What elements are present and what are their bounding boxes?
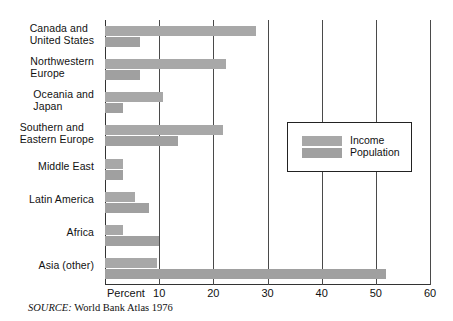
category-label-line1: Latin America bbox=[29, 194, 94, 206]
category-label-line1: Africa bbox=[67, 227, 94, 239]
x-tick-label-50: 50 bbox=[370, 287, 382, 299]
category-label-7: Asia (other) bbox=[39, 260, 94, 272]
category-label-line1: Middle East bbox=[38, 161, 94, 173]
chart-legend: Income Population bbox=[287, 122, 412, 172]
category-label-0: Canada andUnited States bbox=[30, 23, 94, 46]
x-tick-label-60: 60 bbox=[424, 287, 436, 299]
source-text: World Bank Atlas 1976 bbox=[72, 302, 173, 313]
bar-income bbox=[105, 192, 135, 202]
bar-income bbox=[105, 26, 256, 36]
category-label-4: Middle East bbox=[38, 161, 94, 173]
bar-income bbox=[105, 125, 223, 135]
bar-population bbox=[105, 103, 123, 113]
category-label-line2: Eastern Europe bbox=[20, 134, 94, 146]
legend-swatch-group bbox=[302, 136, 342, 159]
category-label-2: Oceania andJapan bbox=[33, 89, 94, 112]
category-label-line2: Japan bbox=[33, 101, 94, 113]
category-label-line1: Asia (other) bbox=[39, 260, 94, 272]
source-label: SOURCE: bbox=[28, 302, 72, 313]
legend-label-population: Population bbox=[350, 146, 400, 158]
bar-income bbox=[105, 258, 157, 268]
category-label-1: NorthwesternEurope bbox=[30, 56, 94, 79]
x-tick-label-30: 30 bbox=[261, 287, 273, 299]
bar-population bbox=[105, 269, 386, 279]
category-label-6: Africa bbox=[67, 227, 94, 239]
bar-income bbox=[105, 59, 226, 69]
bar-population bbox=[105, 236, 159, 246]
chart-figure: Canada andUnited StatesNorthwesternEurop… bbox=[0, 0, 453, 321]
category-label-5: Latin America bbox=[29, 194, 94, 206]
bar-income bbox=[105, 92, 163, 102]
legend-swatch-population bbox=[302, 148, 342, 158]
bar-income bbox=[105, 225, 123, 235]
bar-population bbox=[105, 170, 123, 180]
legend-swatch-income bbox=[302, 136, 342, 146]
bar-population bbox=[105, 70, 140, 80]
legend-label-income: Income bbox=[350, 134, 384, 146]
category-label-line1: Canada and bbox=[30, 23, 94, 35]
category-axis-labels: Canada andUnited StatesNorthwesternEurop… bbox=[0, 20, 100, 285]
bar-population bbox=[105, 203, 149, 213]
bar-population bbox=[105, 37, 140, 47]
category-label-3: Southern andEastern Europe bbox=[20, 122, 94, 145]
category-label-line1: Northwestern bbox=[30, 56, 94, 68]
x-tick-label-10: 10 bbox=[153, 287, 165, 299]
category-label-line2: Europe bbox=[30, 68, 94, 80]
category-label-line2: United States bbox=[30, 35, 94, 47]
bar-income bbox=[105, 159, 123, 169]
bar-population bbox=[105, 136, 178, 146]
x-axis-tick-labels: 102030405060 bbox=[0, 287, 453, 303]
x-tick-label-40: 40 bbox=[316, 287, 328, 299]
gridline-60 bbox=[430, 20, 431, 285]
x-tick-label-20: 20 bbox=[207, 287, 219, 299]
source-note: SOURCE: World Bank Atlas 1976 bbox=[28, 302, 173, 313]
